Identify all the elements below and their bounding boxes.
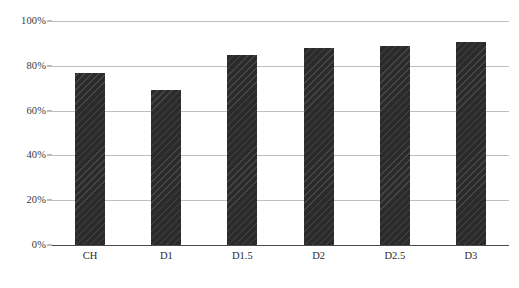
bar-d2[interactable] (304, 48, 334, 245)
bar-slot-ch (52, 21, 128, 245)
bars-layer (52, 21, 509, 245)
bar-slot-d3 (433, 21, 509, 245)
bar-chart: 100% 80% 60% 40% 20% 0% (0, 0, 519, 288)
x-axis-label-d3: D3 (464, 250, 477, 262)
x-axis-label-d1: D1 (160, 250, 173, 262)
y-axis-label-100: 100% (0, 16, 46, 27)
y-axis-label-60: 60% (0, 105, 46, 116)
bar-slot-d15 (204, 21, 280, 245)
bar-ch[interactable] (75, 73, 105, 245)
x-axis-baseline (52, 245, 509, 246)
bar-slot-d2 (281, 21, 357, 245)
bar-d3[interactable] (456, 42, 486, 245)
x-axis-labels: CH D1 D1.5 D2 D2.5 D3 (52, 250, 509, 270)
y-axis-labels: 100% 80% 60% 40% 20% 0% (0, 21, 46, 245)
bar-d2-5[interactable] (380, 46, 410, 245)
x-axis-label-d2-5: D2.5 (384, 250, 405, 262)
y-axis-label-0: 0% (0, 240, 46, 251)
y-axis-label-20: 20% (0, 195, 46, 206)
bar-d1[interactable] (151, 90, 181, 245)
x-axis-label-ch: CH (83, 250, 98, 262)
y-axis-label-40: 40% (0, 150, 46, 161)
x-axis-label-d2: D2 (312, 250, 325, 262)
x-axis-label-d1-5: D1.5 (232, 250, 253, 262)
bar-slot-d1 (128, 21, 204, 245)
bar-slot-d25 (357, 21, 433, 245)
bar-d1-5[interactable] (227, 55, 257, 245)
y-axis-label-80: 80% (0, 61, 46, 72)
